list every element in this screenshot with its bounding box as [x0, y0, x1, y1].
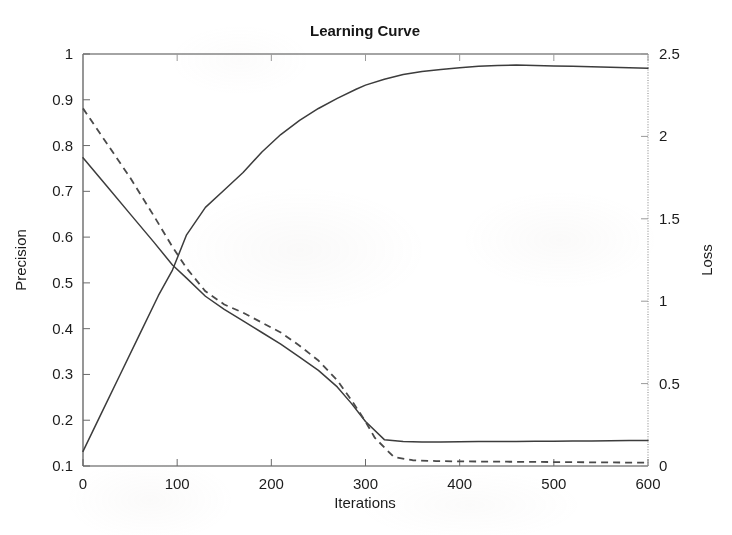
chart-title: Learning Curve	[310, 22, 420, 39]
y-tick-label-right: 2	[659, 127, 667, 144]
y-tick-label-right: 0	[659, 457, 667, 474]
y-axis-label-precision: Precision	[12, 229, 29, 291]
y-tick-label-right: 1	[659, 292, 667, 309]
x-tick-label: 200	[259, 475, 284, 492]
y-tick-label-right: 2.5	[659, 45, 680, 62]
x-tick-label: 500	[541, 475, 566, 492]
learning-curve-figure: Learning Curve 0100200300400500600 0.10.…	[0, 0, 732, 535]
x-axis-label: Iterations	[334, 494, 396, 511]
y-tick-label-left: 1	[65, 45, 73, 62]
y-tick-label-left: 0.5	[52, 274, 73, 291]
x-tick-label: 100	[165, 475, 190, 492]
x-tick-label: 300	[353, 475, 378, 492]
y-tick-label-left: 0.3	[52, 365, 73, 382]
y-tick-label-left: 0.8	[52, 137, 73, 154]
y-tick-label-left: 0.1	[52, 457, 73, 474]
y-tick-label-left: 0.6	[52, 228, 73, 245]
y-tick-label-right: 1.5	[659, 210, 680, 227]
x-tick-label: 0	[79, 475, 87, 492]
x-tick-label: 400	[447, 475, 472, 492]
y-tick-label-left: 0.2	[52, 411, 73, 428]
y-axis-label-loss: Loss	[698, 244, 715, 276]
y-tick-label-left: 0.4	[52, 320, 73, 337]
y-tick-label-left: 0.7	[52, 182, 73, 199]
y-tick-label-left: 0.9	[52, 91, 73, 108]
y-tick-label-right: 0.5	[659, 375, 680, 392]
x-tick-label: 600	[635, 475, 660, 492]
learning-curve-chart: Learning Curve 0100200300400500600 0.10.…	[0, 0, 732, 535]
